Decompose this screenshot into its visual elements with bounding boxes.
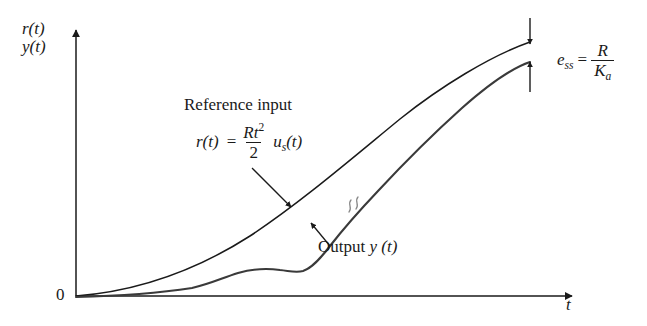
ref-eq-tail: us(t) (273, 133, 302, 151)
reference-pointer-arrow (252, 168, 291, 207)
ref-eq-tail-arg: (t) (286, 132, 302, 151)
ess-eq-lhs-base: e (557, 50, 565, 69)
ref-eq-lhs: r(t) (196, 133, 219, 151)
ref-eq-equals: = (227, 133, 237, 151)
ess-eq-lhs-sub: ss (565, 60, 574, 73)
output-caption-symbol: y (t) (369, 237, 397, 256)
response-plot (0, 0, 647, 326)
ess-eq-lhs: ess (557, 51, 574, 69)
ess-eq-equals: = (578, 51, 588, 69)
reference-input-curve (76, 42, 530, 296)
reference-input-equation: r(t) = Rt2 2 us(t) (196, 124, 302, 161)
ref-eq-fraction: Rt2 2 (240, 124, 267, 161)
steady-state-error-equation: ess = R Ka (557, 42, 614, 79)
ref-eq-denominator: 2 (246, 142, 261, 161)
origin-label: 0 (56, 286, 65, 304)
ess-eq-numerator: R (595, 42, 611, 60)
y-axis-label-line1: r(t) (22, 20, 46, 38)
reference-input-caption: Reference input (184, 96, 292, 114)
y-axis-label: r(t) y(t) (22, 20, 46, 57)
ess-eq-denominator-base: K (594, 61, 605, 80)
ref-eq-numerator-exponent: 2 (258, 121, 264, 134)
y-axis-label-line2: y(t) (22, 38, 46, 56)
ess-eq-denominator: Ka (591, 60, 614, 79)
curve-break-squiggle-icon (349, 197, 358, 212)
ess-eq-denominator-sub: a (605, 70, 611, 83)
ref-eq-tail-base: u (273, 132, 282, 151)
ess-eq-fraction: R Ka (591, 42, 614, 79)
x-axis-label: t (566, 296, 571, 314)
ref-eq-numerator: Rt2 (240, 124, 267, 142)
figure-canvas: r(t) y(t) 0 t Reference input r(t) = Rt2… (0, 0, 647, 326)
output-response-curve (76, 62, 530, 297)
output-caption-prefix: Output (318, 237, 365, 256)
output-caption: Output y (t) (318, 238, 397, 256)
ref-eq-numerator-base: Rt (243, 123, 258, 142)
